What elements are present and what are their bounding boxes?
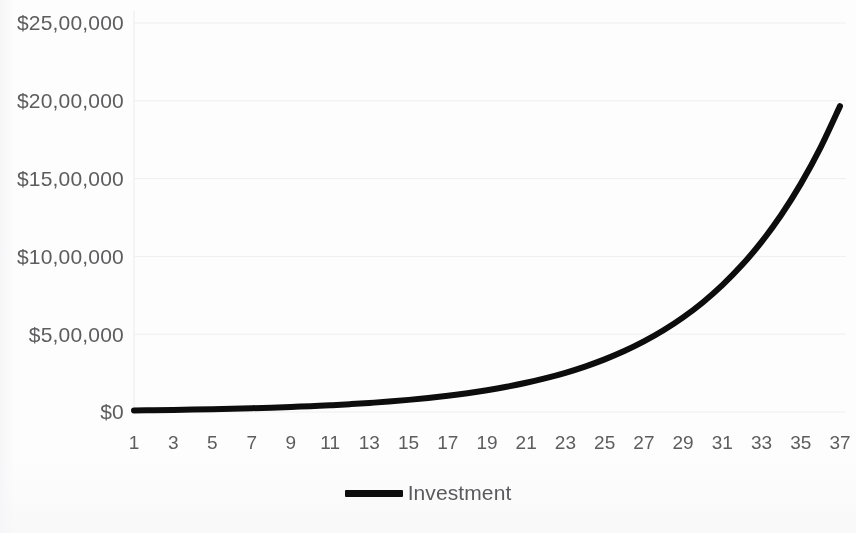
- investment-growth-chart: $25,00,000 $20,00,000 $15,00,000 $10,00,…: [0, 0, 856, 533]
- x-axis-tick-label: 23: [555, 432, 576, 454]
- x-axis-tick-label: 17: [437, 432, 458, 454]
- legend-label: Investment: [408, 481, 512, 505]
- x-axis-tick-label: 3: [168, 432, 179, 454]
- x-axis-tick-label: 7: [246, 432, 257, 454]
- x-axis-tick-label: 33: [751, 432, 772, 454]
- x-axis-tick-label: 29: [673, 432, 694, 454]
- x-axis-tick-label: 35: [790, 432, 811, 454]
- x-axis-tick-label: 15: [398, 432, 419, 454]
- x-axis-tick-label: 25: [594, 432, 615, 454]
- x-axis-tick-label-group: 135791113151719212325272931333537: [0, 0, 856, 533]
- x-axis-tick-label: 9: [286, 432, 297, 454]
- x-axis-tick-label: 1: [129, 432, 140, 454]
- x-axis-tick-label: 37: [829, 432, 850, 454]
- x-axis-tick-label: 11: [320, 432, 340, 454]
- x-axis-tick-label: 13: [359, 432, 380, 454]
- legend-line-swatch-icon: [345, 490, 403, 497]
- x-axis-tick-label: 21: [516, 432, 537, 454]
- x-axis-tick-label: 31: [712, 432, 733, 454]
- x-axis-tick-label: 5: [207, 432, 218, 454]
- x-axis-tick-label: 27: [633, 432, 654, 454]
- chart-legend: Investment: [0, 481, 856, 505]
- x-axis-tick-label: 19: [476, 432, 497, 454]
